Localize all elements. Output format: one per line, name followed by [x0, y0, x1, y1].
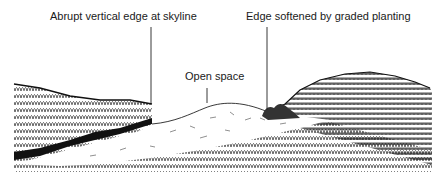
- label-abrupt-edge: Abrupt vertical edge at skyline: [50, 10, 197, 22]
- label-open-space: Open space: [185, 70, 244, 82]
- label-softened-edge: Edge softened by graded planting: [246, 10, 411, 22]
- landscape-illustration: [0, 0, 447, 180]
- leader-lines: [151, 27, 267, 110]
